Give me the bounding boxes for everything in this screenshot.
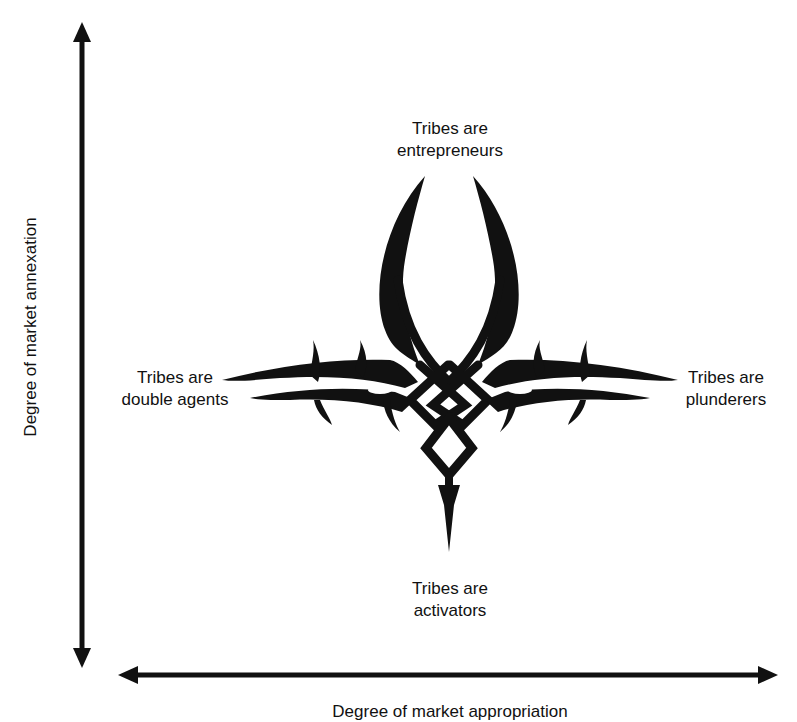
label-plunderers-line1: Tribes are [666,367,786,389]
label-entrepreneurs-line2: entrepreneurs [380,140,520,162]
tribal-knot-ornament-icon [220,160,680,560]
label-plunderers: Tribes are plunderers [666,367,786,411]
y-axis-label-text: Degree of market annexation [21,217,41,436]
label-entrepreneurs: Tribes are entrepreneurs [380,118,520,162]
x-axis-arrow [118,661,778,689]
label-activators-line1: Tribes are [380,578,520,600]
label-activators-line2: activators [380,600,520,622]
label-entrepreneurs-line1: Tribes are [380,118,520,140]
label-activators: Tribes are activators [380,578,520,622]
y-axis-arrow [68,22,98,668]
label-plunderers-line2: plunderers [666,389,786,411]
x-axis-label: Degree of market appropriation [300,702,600,722]
